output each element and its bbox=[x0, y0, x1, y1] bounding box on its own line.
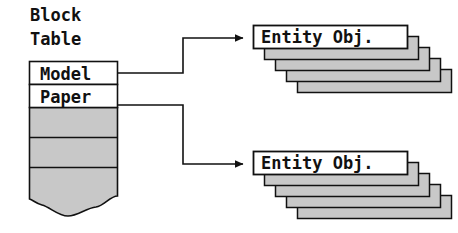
connector-model-to-entity-top bbox=[118, 38, 244, 73]
block-table-cell-label-model: Model bbox=[40, 64, 91, 84]
connector-paper-to-entity-bottom bbox=[118, 105, 244, 164]
block-table-title: BlockTable bbox=[30, 3, 81, 51]
connector-model-path bbox=[118, 38, 244, 73]
block-table bbox=[30, 62, 118, 217]
block-table-cell-label-paper: Paper bbox=[40, 87, 91, 107]
block-table-body-torn bbox=[30, 108, 118, 217]
block-table-title-line-1: Table bbox=[30, 29, 81, 49]
entity-stack-bottom-label: Entity Obj. bbox=[261, 153, 374, 173]
entity-stack-top-label: Entity Obj. bbox=[261, 27, 374, 47]
diagram-canvas: BlockTable Model Paper Entity Obj. Entit… bbox=[0, 0, 458, 233]
block-table-title-line-0: Block bbox=[30, 5, 81, 25]
connector-paper-path bbox=[118, 105, 244, 164]
